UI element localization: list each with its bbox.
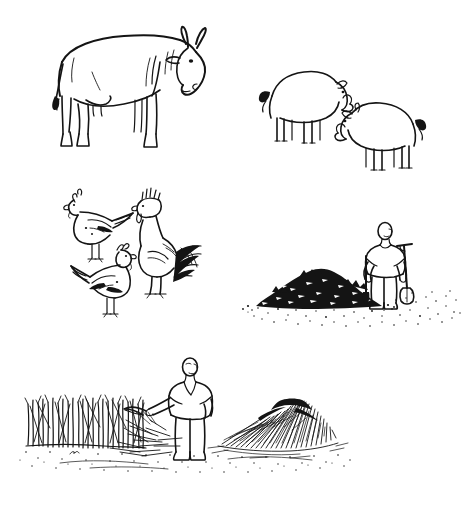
- animal-hen-lower: [71, 244, 136, 317]
- farmer-with-sickle: [124, 358, 213, 460]
- animal-rooster: [132, 188, 201, 298]
- animal-hen-upper: [64, 189, 133, 262]
- illustration-canvas: [0, 0, 469, 506]
- illustration-page: Black ink line drawing on white: a cow a…: [0, 0, 469, 506]
- farmer-with-spade: [363, 223, 414, 310]
- scene-compost: [242, 223, 461, 327]
- ground-stipple-harvest: [19, 451, 350, 472]
- animal-pig-upper: [259, 71, 353, 143]
- scene-harvest: [19, 358, 350, 473]
- scene-poultry-group: [64, 188, 201, 317]
- standing-crop: [25, 395, 146, 454]
- animal-pig-lower: [335, 103, 426, 170]
- animal-cow: [52, 27, 206, 147]
- cut-stalk-pile: [208, 399, 348, 459]
- scene-livestock-row: [52, 27, 426, 170]
